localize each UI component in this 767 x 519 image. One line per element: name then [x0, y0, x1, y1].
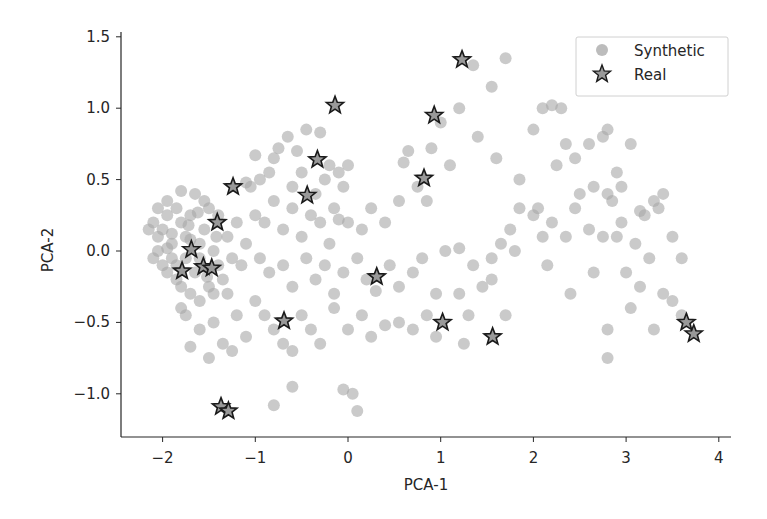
- y-tick-label: 1.0: [86, 99, 110, 117]
- synthetic-point: [277, 224, 289, 236]
- synthetic-point: [486, 274, 498, 286]
- synthetic-point: [282, 131, 294, 143]
- y-ticks: 1.51.00.50.0−0.5−1.0: [74, 28, 121, 403]
- synthetic-point: [500, 309, 512, 321]
- synthetic-point: [365, 202, 377, 214]
- synthetic-point: [249, 295, 261, 307]
- synthetic-point: [296, 309, 308, 321]
- legend-label-real: Real: [634, 66, 666, 84]
- synthetic-point: [296, 231, 308, 243]
- synthetic-point: [615, 181, 627, 193]
- synthetic-point: [467, 59, 479, 71]
- synthetic-point: [175, 185, 187, 197]
- synthetic-point: [300, 252, 312, 264]
- scatter-chart: −2−101234 1.51.00.50.0−0.5−1.0 PCA-1 PCA…: [0, 0, 767, 519]
- synthetic-point: [259, 309, 271, 321]
- synthetic-point: [337, 181, 349, 193]
- synthetic-point: [189, 188, 201, 200]
- synthetic-point: [347, 388, 359, 400]
- synthetic-point: [393, 316, 405, 328]
- synthetic-point: [194, 324, 206, 336]
- synthetic-point: [231, 216, 243, 228]
- synthetic-point: [314, 216, 326, 228]
- synthetic-point: [602, 324, 614, 336]
- synthetic-point: [226, 345, 238, 357]
- synthetic-point: [291, 145, 303, 157]
- synthetic-point: [634, 205, 646, 217]
- synthetic-point: [393, 195, 405, 207]
- synthetic-point: [588, 181, 600, 193]
- synthetic-point: [319, 174, 331, 186]
- synthetic-point: [602, 352, 614, 364]
- synthetic-point: [365, 331, 377, 343]
- synthetic-point: [249, 209, 261, 221]
- synthetic-point: [208, 245, 220, 257]
- synthetic-point: [328, 288, 340, 300]
- synthetic-point: [342, 324, 354, 336]
- synthetic-point: [620, 266, 632, 278]
- synthetic-point: [611, 166, 623, 178]
- synthetic-point: [184, 341, 196, 353]
- synthetic-point: [500, 52, 512, 64]
- synthetic-point: [240, 331, 252, 343]
- synthetic-point: [602, 124, 614, 136]
- synthetic-point: [430, 331, 442, 343]
- synthetic-point: [183, 219, 195, 231]
- synthetic-point: [268, 399, 280, 411]
- synthetic-point: [472, 131, 484, 143]
- synthetic-point: [513, 202, 525, 214]
- synthetic-point: [551, 159, 563, 171]
- synthetic-point: [370, 285, 382, 297]
- synthetic-point: [143, 224, 155, 236]
- synthetic-point: [560, 138, 572, 150]
- synthetic-point: [407, 266, 419, 278]
- synthetic-circle-icon: [596, 44, 608, 56]
- synthetic-point: [629, 238, 641, 250]
- synthetic-point: [268, 195, 280, 207]
- y-tick-label: 1.5: [86, 28, 110, 46]
- synthetic-point: [203, 352, 215, 364]
- synthetic-point: [421, 309, 433, 321]
- synthetic-point: [328, 302, 340, 314]
- synthetic-point: [208, 288, 220, 300]
- synthetic-point: [314, 126, 326, 138]
- synthetic-point: [296, 166, 308, 178]
- y-tick-label: 0.0: [86, 242, 110, 260]
- x-ticks: −2−101234: [152, 437, 724, 467]
- synthetic-point: [666, 231, 678, 243]
- x-tick-label: 1: [436, 449, 446, 467]
- synthetic-point: [249, 149, 261, 161]
- synthetic-point: [569, 202, 581, 214]
- synthetic-point: [192, 206, 204, 218]
- synthetic-point: [532, 202, 544, 214]
- synthetic-point: [175, 302, 187, 314]
- synthetic-point: [486, 81, 498, 93]
- synthetic-point: [416, 252, 428, 264]
- synthetic-point: [463, 309, 475, 321]
- synthetic-point: [379, 216, 391, 228]
- real-point: [434, 313, 451, 329]
- synthetic-point: [602, 188, 614, 200]
- synthetic-point: [323, 238, 335, 250]
- synthetic-point: [286, 281, 298, 293]
- x-tick-label: 0: [343, 449, 353, 467]
- synthetic-point: [541, 259, 553, 271]
- synthetic-point: [574, 188, 586, 200]
- synthetic-point: [286, 181, 298, 193]
- synthetic-point: [597, 231, 609, 243]
- synthetic-point: [268, 152, 280, 164]
- synthetic-point: [527, 124, 539, 136]
- synthetic-point: [439, 245, 451, 257]
- synthetic-point: [546, 216, 558, 228]
- synthetic-point: [648, 324, 660, 336]
- synthetic-point: [254, 252, 266, 264]
- synthetic-point: [217, 274, 229, 286]
- synthetic-point: [634, 281, 646, 293]
- y-tick-label: 0.5: [86, 171, 110, 189]
- x-tick-label: 2: [529, 449, 539, 467]
- synthetic-point: [198, 224, 210, 236]
- synthetic-point: [407, 324, 419, 336]
- synthetic-point: [504, 224, 516, 236]
- synthetic-point: [263, 166, 275, 178]
- synthetic-point: [277, 259, 289, 271]
